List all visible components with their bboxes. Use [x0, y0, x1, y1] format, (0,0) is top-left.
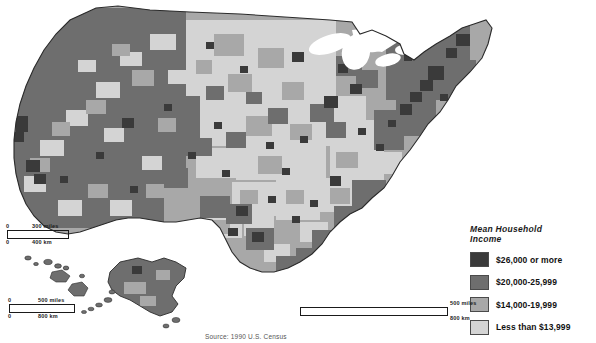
scale-bar-wide: 500 miles 800 km [300, 300, 486, 322]
legend-row-mid: $14,000-19,999 [470, 295, 596, 314]
legend-title-line2: Income [470, 234, 502, 244]
scale-main-zero-top: 0 [6, 223, 9, 229]
map-figure: Mean Household Income $26,000 or more $2… [0, 0, 596, 343]
scale-wide-miles: 500 miles [450, 300, 477, 306]
legend-title: Mean Household Income [470, 224, 596, 244]
scale-main-miles: 300 miles [32, 223, 59, 229]
legend-label-highest: $26,000 or more [496, 255, 562, 265]
legend-row-highest: $26,000 or more [470, 250, 596, 269]
legend-label-mid: $14,000-19,999 [496, 300, 557, 310]
scale-wide-km: 800 km [450, 315, 470, 321]
scale-inset-km: 800 km [38, 313, 58, 319]
map-legend: Mean Household Income $26,000 or more $2… [470, 224, 596, 340]
legend-title-line1: Mean Household [470, 224, 542, 234]
scale-main-zero-bottom: 0 [6, 239, 9, 245]
legend-swatch-high [470, 275, 489, 290]
legend-label-high: $20,000-25,999 [496, 277, 557, 287]
legend-row-high: $20,000-25,999 [470, 273, 596, 292]
map-credit: Source: 1990 U.S. Census [205, 333, 287, 340]
hawaii-inset [25, 256, 88, 296]
scale-bar-inset: 0 500 miles 0 800 km [8, 296, 100, 322]
scale-inset-miles: 500 miles [38, 297, 65, 303]
legend-swatch-highest [470, 252, 489, 267]
scale-inset-zero-top: 0 [8, 297, 11, 303]
scale-bar-main: 0 300 miles 0 400 km [6, 222, 84, 248]
legend-row-lowest: Less than $13,999 [470, 318, 596, 337]
scale-inset-zero-bottom: 0 [8, 313, 11, 319]
legend-label-lowest: Less than $13,999 [496, 322, 570, 332]
scale-main-km: 400 km [32, 239, 52, 245]
